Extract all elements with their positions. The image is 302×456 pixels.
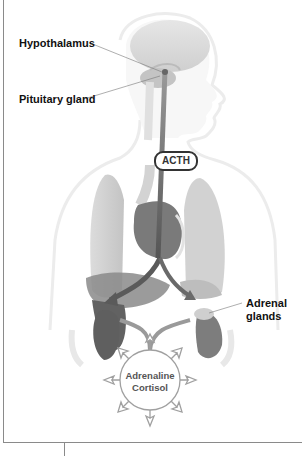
adrenal-gland-right xyxy=(194,308,214,320)
label-hormones: Adrenaline Cortisol xyxy=(117,370,183,394)
label-adrenal-glands: Adrenal glands xyxy=(246,297,287,323)
acth-badge: ACTH xyxy=(154,151,198,171)
hormone-cortisol: Cortisol xyxy=(117,382,183,394)
pituitary-dot xyxy=(162,69,168,75)
label-hypothalamus: Hypothalamus xyxy=(19,37,95,50)
adrenal-line-2: glands xyxy=(246,310,287,323)
hormone-adrenaline: Adrenaline xyxy=(117,370,183,382)
label-pituitary-gland: Pituitary gland xyxy=(19,93,95,106)
adrenal-line-1: Adrenal xyxy=(246,297,287,310)
